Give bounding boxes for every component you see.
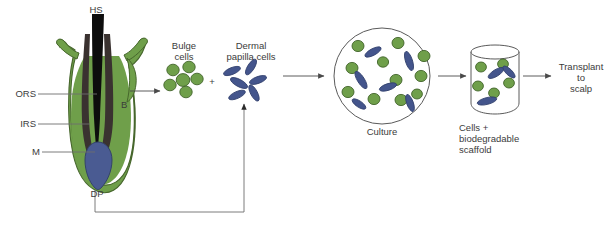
culture-green-cell [415,70,427,81]
scaffold-cylinder [471,45,519,114]
caption-scaffold-line1: Cells + [459,122,549,133]
follicle-upper-left-arm [57,39,79,59]
caption-dp-cells-line2: papilla cells [211,51,291,62]
caption-scaffold-line2: biodegradable [459,133,549,144]
bulge-cell [176,74,190,87]
culture-green-cell [412,89,423,99]
culture-green-cell [395,94,407,105]
caption-transplant-line2: to [553,72,609,83]
caption-bulge-cells-line2: cells [158,51,210,62]
caption-culture: Culture [352,126,412,137]
culture-green-cell [392,37,404,48]
label-hair-shaft: HS [79,4,113,15]
caption-transplant-line3: scalp [553,83,609,94]
label-outer-root-sheath: ORS [0,88,36,99]
dp-cell [248,74,267,87]
bulge-cell [183,61,195,73]
caption-bulge-cells-line1: Bulge [158,40,210,51]
caption-transplant-line1: Transplant [553,61,609,72]
scaffold-green-cell [504,78,515,88]
dp-cell [247,83,261,102]
bulge-cell [164,79,176,91]
label-inner-root-sheath: IRS [0,118,36,129]
culture-green-cell [418,50,430,61]
scaffold-green-cell [489,88,500,98]
label-matrix: M [0,146,40,157]
bulge-cell [180,86,192,98]
dp-cell [227,88,246,102]
culture-green-cell [368,93,380,104]
dermal-papilla-cells-group [222,58,267,103]
bulge-cell [167,64,179,76]
dp-cell [229,75,249,90]
label-dermal-papilla: DP [80,188,114,199]
culture-green-cell [342,86,354,97]
dp-cell [222,64,241,77]
bulge-region-shape [127,58,136,102]
culture-green-cell [352,40,364,51]
scaffold-green-cell [476,62,487,72]
caption-scaffold-line3: scaffold [459,144,549,155]
diagram-canvas: HS ORS IRS M B DP Bulge cells + Dermal p… [0,0,611,229]
culture-dish [334,28,430,124]
caption-dp-cells-line1: Dermal [211,40,291,51]
plus-sign: + [205,76,219,87]
culture-green-cell [377,57,388,67]
cylinder-top-rim [471,45,519,59]
bulge-cells-group [164,61,203,98]
scaffold-green-cell [473,81,484,91]
label-bulge: B [121,99,141,110]
bulge-cell [191,73,203,85]
